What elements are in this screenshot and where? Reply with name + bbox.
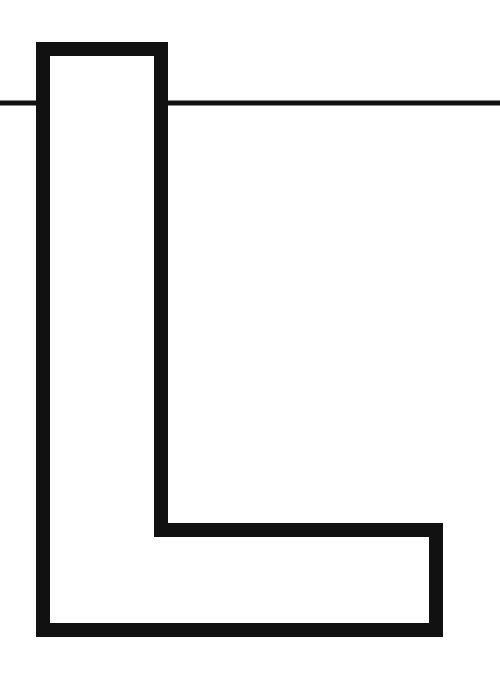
line-drawing-svg xyxy=(0,0,500,693)
figure-canvas: Block letter L outline with horizontal r… xyxy=(0,0,500,693)
